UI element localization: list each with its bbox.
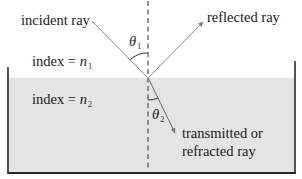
index-n1-var: n xyxy=(80,53,87,69)
index-n2-prefix: index = xyxy=(32,91,80,107)
theta1-symbol: θ xyxy=(129,33,136,49)
refraction-diagram: incident ray reflected ray index = n1 in… xyxy=(0,0,302,179)
reflected-ray-label: reflected ray xyxy=(207,10,280,25)
index-n2-sub: 2 xyxy=(88,100,92,109)
index-n1-sub: 1 xyxy=(88,62,92,71)
index-n2-label: index = n2 xyxy=(32,92,92,107)
incident-ray-label: incident ray xyxy=(21,13,90,28)
transmitted-ray-label: transmitted or refracted ray xyxy=(182,124,292,160)
transmitted-ray-label-line1: transmitted or xyxy=(182,124,292,142)
transmitted-ray-label-line2: refracted ray xyxy=(182,142,292,160)
index-n1-label: index = n1 xyxy=(32,54,92,69)
index-n1-prefix: index = xyxy=(32,53,80,69)
theta2-label: θ2 xyxy=(152,107,164,122)
theta1-arc xyxy=(130,53,148,60)
reflected-ray xyxy=(149,22,204,78)
theta1-label: θ1 xyxy=(129,34,141,49)
index-n2-var: n xyxy=(80,91,87,107)
theta2-symbol: θ xyxy=(152,106,159,122)
theta2-sub: 2 xyxy=(160,115,164,124)
theta1-sub: 1 xyxy=(137,42,141,51)
